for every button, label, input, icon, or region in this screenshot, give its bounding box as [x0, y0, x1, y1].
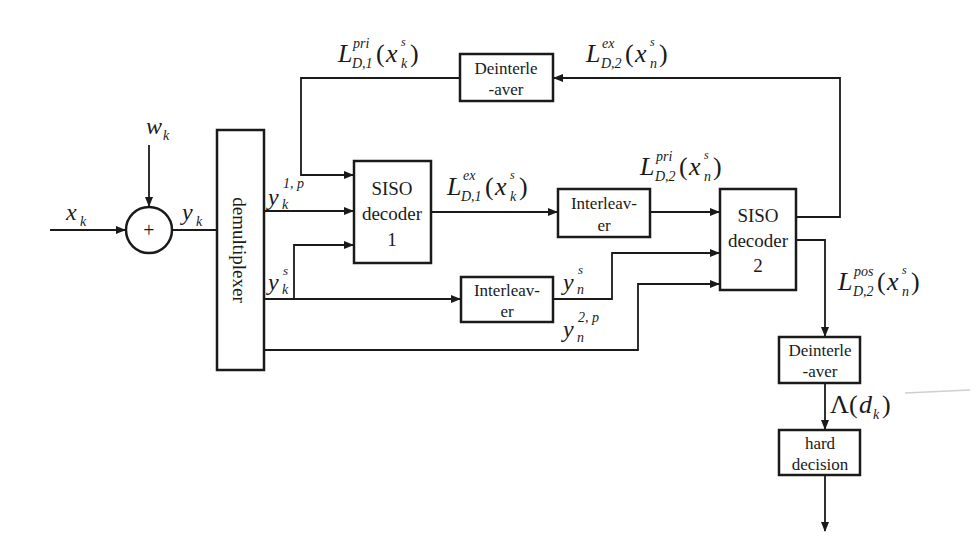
label-l-ex-d1: L ex D,1 ( x s k ): [446, 168, 528, 204]
wires: [50, 78, 840, 531]
svg-text:x: x: [494, 172, 507, 201]
svg-text:k: k: [401, 56, 408, 71]
turbo-decoder-diagram: + demultiplexer SISO decoder 1 SISO deco…: [0, 0, 976, 542]
demultiplexer-label: demultiplexer: [229, 197, 250, 303]
svg-text:(: (: [625, 39, 634, 68]
label-systematic: y k s: [266, 263, 289, 297]
svg-text:pri: pri: [655, 149, 672, 164]
svg-text:D,2: D,2: [600, 56, 622, 71]
svg-text:n: n: [577, 330, 584, 345]
svg-text:L: L: [446, 172, 461, 201]
svg-text:L: L: [337, 39, 352, 68]
svg-text:er: er: [500, 302, 514, 321]
systematic-to-siso1-wire: [294, 245, 353, 299]
svg-text:x: x: [385, 39, 398, 68]
svg-text:n: n: [650, 56, 657, 71]
label-parity1: y k 1, p: [266, 176, 304, 212]
svg-text:): ): [659, 39, 668, 68]
svg-text:s: s: [902, 263, 907, 277]
interleaver-mid-block: Interleav- er: [558, 189, 650, 237]
label-adder-out-yk: y k: [180, 199, 203, 229]
label-systematic-interleaved: y n s: [561, 262, 584, 297]
svg-text:(: (: [485, 172, 494, 201]
deinterleaver-top-block: Deinterle -aver: [460, 54, 553, 101]
svg-text:Interleav-: Interleav-: [571, 194, 637, 213]
svg-text:ex: ex: [602, 36, 615, 51]
svg-text:s: s: [704, 148, 709, 162]
label-input-xk: x k: [65, 199, 87, 229]
svg-text:k: k: [282, 282, 289, 297]
hard-decision-block: hard decision: [779, 430, 860, 475]
svg-text:): ): [713, 152, 722, 181]
svg-text:L: L: [837, 267, 852, 296]
label-parity2: y n 2, p: [561, 310, 599, 345]
svg-text:d: d: [859, 390, 873, 419]
siso-decoder-2-block: SISO decoder 2: [720, 189, 796, 290]
svg-text:y: y: [266, 184, 279, 210]
label-noise-wk: w k: [146, 113, 170, 143]
svg-text:): ): [882, 390, 891, 419]
svg-text:hard: hard: [805, 434, 836, 453]
svg-text:s: s: [578, 262, 583, 277]
lpos-d2-wire: [796, 240, 825, 336]
svg-text:pos: pos: [853, 264, 874, 279]
svg-text:decoder: decoder: [362, 203, 423, 224]
svg-text:s: s: [510, 168, 515, 182]
label-l-pos-d2: L pos D,2 ( x s n ): [837, 263, 920, 299]
svg-text:x: x: [886, 267, 899, 296]
svg-text:y: y: [561, 316, 574, 342]
label-l-pri-d1: L pri D,1 ( x s k ): [337, 35, 419, 71]
svg-text:): ): [410, 39, 419, 68]
svg-text:2, p: 2, p: [578, 310, 599, 325]
svg-text:x: x: [634, 39, 647, 68]
svg-text:decoder: decoder: [728, 230, 789, 251]
label-l-pri-d2: L pri D,2 ( x s n ): [639, 148, 722, 184]
svg-text:(: (: [849, 390, 858, 419]
svg-text:D,2: D,2: [852, 284, 874, 299]
svg-text:x: x: [688, 152, 701, 181]
svg-text:Deinterle: Deinterle: [474, 59, 537, 78]
svg-text:er: er: [597, 216, 611, 235]
svg-text:k: k: [873, 407, 880, 422]
svg-text:k: k: [282, 197, 289, 212]
svg-text:x: x: [65, 199, 77, 225]
svg-text:y: y: [180, 199, 193, 225]
svg-text:Interleav-: Interleav-: [474, 281, 540, 300]
svg-text:y: y: [561, 269, 574, 295]
label-l-ex-d2: L ex D,2 ( x s n ): [585, 35, 668, 71]
svg-text:s: s: [401, 35, 406, 49]
svg-text:Λ: Λ: [830, 390, 849, 419]
interleaver-bottom-block: Interleav- er: [461, 277, 553, 322]
svg-text:): ): [911, 267, 920, 296]
adder: +: [126, 207, 172, 253]
svg-text:pri: pri: [352, 36, 369, 51]
svg-text:k: k: [80, 214, 87, 229]
svg-text:y: y: [266, 269, 279, 295]
scan-artifact: [905, 390, 970, 393]
svg-text:s: s: [650, 35, 655, 49]
svg-text:k: k: [510, 189, 517, 204]
svg-text:n: n: [577, 282, 584, 297]
svg-text:D,1: D,1: [351, 56, 373, 71]
svg-text:k: k: [196, 214, 203, 229]
svg-text:L: L: [585, 39, 600, 68]
svg-text:1, p: 1, p: [283, 176, 304, 191]
svg-text:w: w: [146, 113, 162, 139]
svg-text:D,2: D,2: [654, 169, 676, 184]
svg-text:SISO: SISO: [737, 205, 778, 226]
svg-text:L: L: [639, 152, 654, 181]
svg-text:Deinterle: Deinterle: [788, 341, 851, 360]
plus-icon: +: [143, 219, 154, 241]
svg-text:n: n: [902, 284, 909, 299]
label-lambda-dk: Λ ( d k ): [830, 390, 891, 422]
svg-text:1: 1: [387, 229, 397, 250]
svg-text:2: 2: [753, 255, 763, 276]
svg-text:s: s: [283, 263, 288, 278]
deinterleaver-output-block: Deinterle -aver: [779, 337, 860, 383]
svg-text:-aver: -aver: [803, 362, 838, 381]
svg-text:): ): [519, 172, 528, 201]
siso-decoder-1-block: SISO decoder 1: [354, 161, 431, 263]
svg-text:k: k: [163, 128, 170, 143]
svg-text:decision: decision: [792, 455, 849, 474]
svg-text:ex: ex: [463, 168, 476, 183]
